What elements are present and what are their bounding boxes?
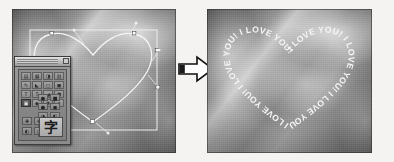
horizontal-type-tool[interactable]: T	[21, 90, 31, 98]
fill-tool-icon: ◼	[57, 83, 61, 88]
tool-row: ▤ ▦ ◨ ▥	[21, 72, 64, 80]
ellipse-shape-icon: ●	[41, 95, 45, 100]
quick-mask-swatch[interactable]: ◐	[22, 127, 32, 135]
tool-row: ✎ ◣ ◻ ◼	[21, 81, 64, 89]
shape-button-row: ● ◼	[38, 103, 63, 110]
foreground-color-swatch[interactable]: ✚	[22, 117, 32, 125]
crop-tool-icon: ▦	[35, 74, 40, 79]
slice-tool-icon: ◨	[46, 74, 51, 79]
rectangle-shape-button[interactable]: ■	[50, 94, 60, 101]
square-shape-button[interactable]: ◼	[50, 103, 60, 110]
path-selection-tool-icon: ▣	[24, 101, 29, 106]
marquee-tool[interactable]: ▤	[21, 72, 31, 80]
gradient-tool-icon: ◣	[35, 83, 39, 88]
palette-titlebar[interactable]	[15, 57, 70, 67]
slice-tool[interactable]: ◨	[43, 72, 53, 80]
tool-palette[interactable]: ▤ ▦ ◨ ▥ ✎ ◣ ◻ ◼ T T ◢ ◥ ▣ ◆ ✱ ✦	[14, 56, 71, 145]
foreground-color-icon: ✚	[25, 119, 29, 124]
right-photo-panel: I LOVE YOU! I LOVE YOU! I LOVE YOU! I LO…	[207, 9, 372, 153]
path-selection-tool[interactable]: ▣	[21, 99, 31, 107]
crop-tool[interactable]: ▦	[32, 72, 42, 80]
circle-shape-icon: ●	[41, 104, 45, 109]
palette-title-grip	[17, 59, 58, 64]
quick-mask-icon: ◐	[25, 129, 29, 134]
rectangle-shape-icon: ■	[53, 95, 58, 100]
move-tool[interactable]: ▥	[54, 72, 64, 80]
eraser-tool[interactable]: ◻	[43, 81, 53, 89]
close-icon[interactable]	[63, 58, 69, 64]
pencil-tool-icon: ✎	[24, 83, 28, 88]
square-shape-icon: ◼	[53, 104, 57, 109]
pencil-tool[interactable]: ✎	[21, 81, 31, 89]
move-tool-icon: ▥	[57, 74, 62, 79]
palette-body: ▤ ▦ ◨ ▥ ✎ ◣ ◻ ◼ T T ◢ ◥ ▣ ◆ ✱ ✦	[18, 69, 67, 141]
figure-stage: ▤ ▦ ◨ ▥ ✎ ◣ ◻ ◼ T T ◢ ◥ ▣ ◆ ✱ ✦	[0, 0, 394, 162]
gradient-tool[interactable]: ◣	[32, 81, 42, 89]
shape-button-row: ● ■	[38, 94, 63, 101]
horizontal-type-tool-icon: T	[24, 92, 27, 97]
fill-tool[interactable]: ◼	[54, 81, 64, 89]
text-tool-button[interactable]: 字	[39, 117, 63, 137]
marquee-tool-icon: ▤	[24, 74, 29, 79]
text-tool-icon: 字	[44, 120, 58, 134]
right-panel-border	[207, 9, 372, 153]
eraser-tool-icon: ◻	[46, 83, 50, 88]
ellipse-shape-button[interactable]: ●	[38, 94, 48, 101]
circle-shape-button[interactable]: ●	[38, 103, 48, 110]
transform-arrow-tail-block	[180, 65, 185, 73]
